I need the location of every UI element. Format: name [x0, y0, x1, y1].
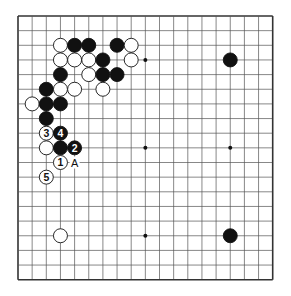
black-stone — [39, 97, 53, 111]
white-stone — [96, 82, 110, 96]
white-stone-circle — [82, 53, 96, 67]
black-stone-circle — [39, 112, 53, 126]
white-stone — [82, 68, 96, 82]
move-number-label: 5 — [43, 171, 49, 183]
star-point — [143, 58, 147, 62]
white-stone-circle — [39, 141, 53, 155]
black-stone: 4 — [53, 126, 67, 140]
move-number-label: 1 — [58, 156, 64, 168]
black-stone-circle — [223, 53, 237, 67]
star-point — [143, 234, 147, 238]
white-stone — [68, 82, 82, 96]
black-stone — [110, 68, 124, 82]
white-stone — [53, 38, 67, 52]
white-stone — [124, 53, 138, 67]
white-stone-circle — [53, 53, 67, 67]
white-stone-circle — [124, 53, 138, 67]
go-board-diagram: 34215 A — [0, 0, 291, 296]
black-stone — [82, 38, 96, 52]
black-stone — [68, 38, 82, 52]
white-stone — [25, 97, 39, 111]
white-stone: 5 — [39, 170, 53, 184]
black-stone — [53, 68, 67, 82]
point-marker-label: A — [71, 157, 79, 169]
black-stone-circle — [53, 141, 67, 155]
white-stone-circle — [53, 229, 67, 243]
black-stone-circle — [53, 68, 67, 82]
white-stone — [53, 82, 67, 96]
black-stone — [96, 53, 110, 67]
black-stone-circle — [39, 97, 53, 111]
black-stone — [39, 82, 53, 96]
black-stone-circle — [96, 68, 110, 82]
black-stone-circle — [39, 82, 53, 96]
black-stone-circle — [53, 97, 67, 111]
move-number-label: 4 — [58, 127, 64, 139]
white-stone — [68, 53, 82, 67]
black-stone-circle — [96, 53, 110, 67]
move-number-label: 3 — [43, 127, 49, 139]
white-stone — [53, 53, 67, 67]
white-stone — [124, 38, 138, 52]
white-stone — [82, 53, 96, 67]
black-stone-circle — [223, 229, 237, 243]
black-stone — [110, 38, 124, 52]
black-stone — [223, 53, 237, 67]
white-stone-circle — [96, 82, 110, 96]
white-stone-circle — [53, 82, 67, 96]
black-stone-circle — [110, 68, 124, 82]
white-stone: 1 — [53, 156, 67, 170]
black-stone — [39, 112, 53, 126]
white-stone-circle — [82, 68, 96, 82]
black-stone — [53, 141, 67, 155]
white-stone-circle — [53, 38, 67, 52]
black-stone-circle — [82, 38, 96, 52]
markers-layer: A — [70, 157, 80, 169]
black-stone — [53, 97, 67, 111]
black-stone-circle — [68, 38, 82, 52]
white-stone-circle — [68, 82, 82, 96]
black-stone — [96, 68, 110, 82]
white-stone — [39, 141, 53, 155]
black-stone — [223, 229, 237, 243]
move-number-label: 2 — [72, 142, 78, 154]
white-stone-circle — [68, 53, 82, 67]
black-stone: 2 — [68, 141, 82, 155]
white-stone — [53, 229, 67, 243]
white-stone-circle — [25, 97, 39, 111]
white-stone: 3 — [39, 126, 53, 140]
white-stone-circle — [124, 38, 138, 52]
black-stone-circle — [110, 38, 124, 52]
star-point — [228, 146, 232, 150]
star-point — [143, 146, 147, 150]
